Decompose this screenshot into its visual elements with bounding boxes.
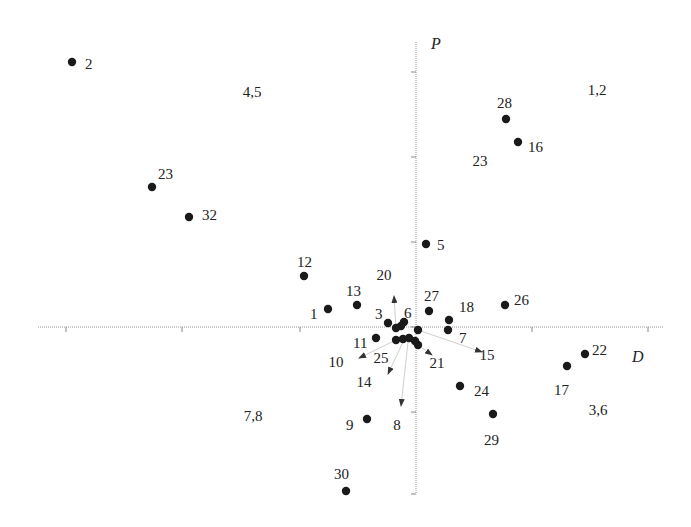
point-label: 2 — [85, 56, 93, 72]
data-point — [342, 487, 350, 495]
data-point — [414, 326, 422, 334]
data-point — [384, 319, 392, 327]
point-label: 17 — [554, 382, 570, 398]
data-point — [456, 382, 464, 390]
point-label: 3 — [375, 306, 383, 322]
data-point — [514, 138, 522, 146]
arrow-label: 14 — [357, 374, 373, 390]
data-point — [68, 58, 76, 66]
point-label: 12 — [297, 254, 312, 270]
data-point — [372, 334, 380, 342]
data-point — [501, 301, 509, 309]
arrow-label: 15 — [480, 347, 495, 363]
arrow-label: 8 — [393, 417, 401, 433]
data-point — [581, 350, 589, 358]
point-label: 13 — [346, 283, 361, 299]
data-point — [489, 410, 497, 418]
vector-arrow — [388, 342, 403, 374]
data-point — [397, 322, 405, 330]
data-point — [563, 362, 571, 370]
data-point — [300, 272, 308, 280]
quadrant-label: 3,6 — [589, 402, 608, 418]
quadrant-label: 7,8 — [244, 408, 263, 424]
point-label: 22 — [592, 342, 607, 358]
arrow-label: 20 — [377, 267, 392, 283]
point-label: 16 — [528, 139, 544, 155]
point-label: 29 — [484, 432, 499, 448]
quadrant-label: 4,5 — [243, 84, 262, 100]
point-label: 6 — [404, 305, 412, 321]
data-point — [363, 415, 371, 423]
data-point — [353, 301, 361, 309]
vector-arrow — [401, 342, 408, 406]
data-point — [445, 316, 453, 324]
point-label: 27 — [424, 288, 440, 304]
data-point — [422, 240, 430, 248]
arrow-label: 25 — [374, 350, 389, 366]
labels: PD4,51,2237,83,6201025148211522332281651… — [85, 35, 644, 482]
data-point — [148, 183, 156, 191]
data-point — [502, 115, 510, 123]
point-label: 23 — [158, 166, 173, 182]
data-point — [324, 305, 332, 313]
scatter-plot: PD4,51,2237,83,6201025148211522332281651… — [0, 0, 691, 527]
point-label: 1 — [310, 306, 318, 322]
point-label: 28 — [497, 95, 512, 111]
point-label: 18 — [459, 299, 474, 315]
point-label: 26 — [514, 292, 530, 308]
data-point — [414, 341, 422, 349]
x-axis-label: D — [631, 348, 644, 365]
point-label: 24 — [474, 383, 490, 399]
y-axis-label: P — [430, 35, 441, 52]
data-point — [185, 213, 193, 221]
point-label: 5 — [437, 237, 445, 253]
point-label: 9 — [346, 417, 354, 433]
quadrant-label: 1,2 — [588, 82, 607, 98]
point-label: 7 — [459, 330, 467, 346]
point-label: 32 — [202, 207, 217, 223]
quadrant-label: 23 — [473, 153, 488, 169]
data-point — [444, 326, 452, 334]
arrow-label: 21 — [430, 355, 445, 371]
point-label: 30 — [334, 466, 349, 482]
data-point — [425, 307, 433, 315]
vector-arrow — [394, 296, 396, 328]
point-label: 11 — [353, 335, 367, 351]
arrow-label: 10 — [329, 354, 344, 370]
points — [68, 58, 589, 495]
